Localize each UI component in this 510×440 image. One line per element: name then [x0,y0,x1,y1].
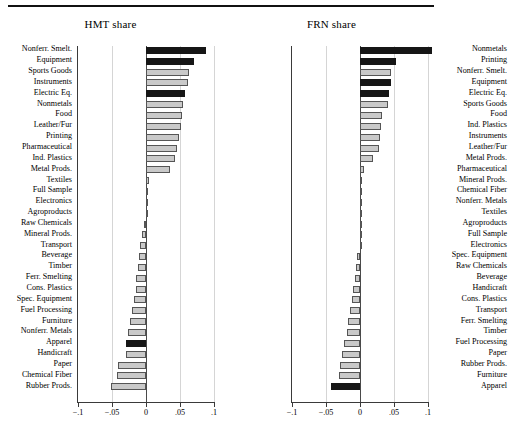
bar [126,340,146,347]
gridline [394,46,395,403]
x-axis-tick [78,403,79,407]
bar [360,210,362,217]
bar [146,58,194,65]
x-axis-tick [326,403,327,407]
chart-panel-frn-share: FRN share NonmetalsPrintingNonferr. Smel… [221,0,442,440]
bar [360,58,396,65]
bar [331,383,360,390]
bar [146,166,170,173]
bar [360,145,379,152]
bar [357,253,360,260]
x-axis-tick [292,403,293,407]
bar [360,199,362,206]
bar [138,264,146,271]
x-axis-tick [112,403,113,407]
x-axis-tick-label: −.05 [311,408,341,417]
bar [111,383,146,390]
bar [136,286,146,293]
bar [146,112,182,119]
bar [117,372,146,379]
x-axis-tick [214,403,215,407]
bar [132,307,146,314]
gridline [180,46,181,403]
bar [360,188,362,195]
x-axis-tick [394,403,395,407]
bar [353,286,360,293]
bar [140,242,146,249]
bar [139,253,146,260]
x-axis-tick-label: 0 [131,408,161,417]
bar [146,69,189,76]
gridline [112,46,113,403]
x-axis-tick-label: −.1 [277,408,307,417]
bar [146,101,183,108]
bar [146,210,148,217]
bar [146,177,149,184]
gridline [214,46,215,403]
x-axis-tick-label: −.05 [97,408,127,417]
bar [134,296,146,303]
bar [146,145,177,152]
bar [146,188,148,195]
axis-frame-left [77,46,78,404]
bar [142,231,146,238]
bar [356,264,360,271]
x-axis-tick-label: .05 [379,408,409,417]
bar [130,318,146,325]
x-axis-tick-label: −.1 [63,408,93,417]
bar [360,231,362,238]
bar [146,90,185,97]
bar [360,134,380,141]
plot-area-frn: −.1−.050.05.1 [221,0,442,440]
bar [360,221,362,228]
bar [118,362,146,369]
bar [344,340,360,347]
bar [146,123,181,130]
bar [339,372,360,379]
bar [342,351,360,358]
bar [360,79,391,86]
bar [146,79,188,86]
bar [146,199,148,206]
x-axis-tick [180,403,181,407]
bar [360,47,432,54]
bar [360,242,362,249]
bar [360,112,382,119]
bar [146,134,179,141]
bar [360,177,362,184]
axis-frame-left [291,46,292,404]
bar [128,329,146,336]
bar [146,155,175,162]
x-axis-tick-label: .1 [413,408,443,417]
bar [360,166,364,173]
x-axis-tick [360,403,361,407]
x-axis-tick [146,403,147,407]
plot-area-hmt: −.1−.050.05.1 [0,0,221,440]
bar [360,123,381,130]
gridline [326,46,327,403]
bar [144,221,146,228]
bar [340,362,360,369]
gridline [428,46,429,403]
chart-panel-hmt-share: HMT share Nonferr. Smelt.EquipmentSports… [0,0,221,440]
bar [347,329,360,336]
x-axis-tick-label: 0 [345,408,375,417]
bar [360,101,388,108]
bar [360,90,389,97]
bar [360,69,391,76]
bar [146,47,206,54]
bar [350,307,360,314]
zero-reference-line [146,46,147,403]
x-axis-tick [428,403,429,407]
x-axis-tick-label: .05 [165,408,195,417]
bar [352,296,360,303]
bar [360,155,373,162]
bar [348,318,360,325]
bar [126,351,146,358]
bar [136,275,146,282]
bar [355,275,360,282]
